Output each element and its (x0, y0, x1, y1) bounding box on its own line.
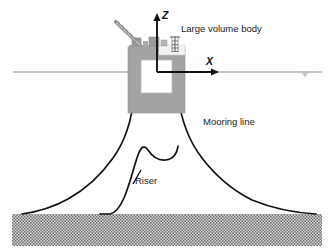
diagram-canvas (0, 0, 334, 251)
figure-root: Large volume body Mooring line Riser Z X (0, 0, 334, 251)
axis-x-arrowhead (211, 68, 219, 75)
mooring-line-left (22, 96, 134, 214)
label-axis-z: Z (162, 10, 168, 21)
crane-icon (114, 20, 140, 45)
mooring-lines-group (22, 96, 316, 214)
label-mooring-line: Mooring line (203, 117, 255, 127)
seabed-region (12, 214, 322, 246)
axis-z-arrowhead (153, 13, 160, 21)
label-large-volume-body: Large volume body (181, 24, 262, 34)
label-riser: Riser (135, 176, 157, 186)
mooring-line-right (178, 96, 316, 214)
label-axis-x: X (206, 56, 213, 67)
water-level-marker (299, 72, 311, 78)
